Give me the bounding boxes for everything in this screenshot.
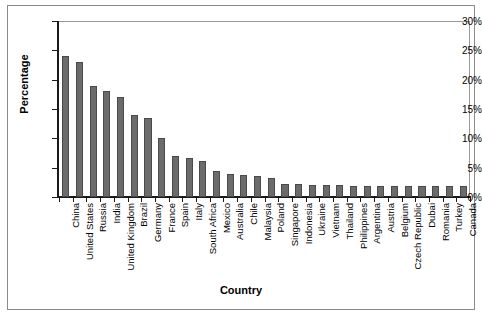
y-axis-tick-mark (52, 80, 57, 81)
x-axis-tick-mark (443, 198, 444, 202)
bar-slot (374, 21, 388, 197)
bar (76, 62, 83, 197)
y-axis-tick-mark (52, 138, 57, 139)
bar (460, 186, 467, 197)
x-axis-tick-mark (402, 198, 403, 202)
y-axis-tick-mark (52, 50, 57, 51)
bar (103, 91, 110, 197)
bar-slot (155, 21, 169, 197)
x-axis-category-label: Germany (152, 203, 163, 242)
bar-slot (402, 21, 416, 197)
bars-layer (59, 21, 470, 197)
x-axis-tick-mark (265, 198, 266, 202)
x-axis-tick-mark (292, 198, 293, 202)
x-axis-category-label: Belgium (399, 203, 410, 237)
x-axis-category-label: Poland (275, 203, 286, 233)
x-axis-category-label: Dubai (426, 203, 437, 228)
bar-slot (333, 21, 347, 197)
x-axis-tick-mark (169, 198, 170, 202)
bar-slot (59, 21, 73, 197)
bar (364, 186, 371, 197)
bar (240, 175, 247, 197)
bar-slot (128, 21, 142, 197)
x-axis-tick-mark (306, 198, 307, 202)
x-axis-category-label: Malaysia (262, 203, 273, 241)
x-axis-category-label: Italy (193, 203, 204, 220)
bar-slot (347, 21, 361, 197)
x-axis-category-label: France (166, 203, 177, 233)
x-axis-tick-mark (223, 198, 224, 202)
x-axis-tick-mark (237, 198, 238, 202)
bar (158, 138, 165, 197)
y-axis-title: Percentage (18, 14, 30, 154)
bar (117, 97, 124, 197)
x-axis-tick-mark (347, 198, 348, 202)
bar-slot (278, 21, 292, 197)
bar-slot (196, 21, 210, 197)
x-axis-tick-mark (141, 198, 142, 202)
bar (186, 158, 193, 197)
bar-slot (141, 21, 155, 197)
bar-slot (114, 21, 128, 197)
x-axis-category-label: Brazil (138, 203, 149, 227)
x-axis-tick-mark (278, 198, 279, 202)
x-axis-tick-mark (196, 198, 197, 202)
bar-slot (237, 21, 251, 197)
x-axis-tick-mark (182, 198, 183, 202)
x-axis-category-label: Thailand (344, 203, 355, 239)
bar (281, 184, 288, 197)
x-axis-tick-mark (470, 198, 471, 202)
x-axis-tick-mark (415, 198, 416, 202)
y-axis-tick-mark (52, 21, 57, 22)
bar (446, 186, 453, 197)
bar (377, 186, 384, 197)
x-axis-category-label: Russia (97, 203, 108, 232)
x-axis-category-label: China (70, 203, 81, 228)
y-axis-tick-mark (52, 109, 57, 110)
x-axis-tick-mark (429, 198, 430, 202)
x-axis-category-label: Indonesia (303, 203, 314, 244)
x-axis-category-label: United Kingdom (125, 203, 136, 271)
bar (62, 56, 69, 197)
bar-slot (86, 21, 100, 197)
x-axis-category-label: Romania (440, 203, 451, 241)
bar (227, 174, 234, 197)
bar (268, 178, 275, 197)
bar-slot (251, 21, 265, 197)
bar (172, 156, 179, 197)
bar (391, 186, 398, 197)
bar-slot (292, 21, 306, 197)
bar (309, 185, 316, 197)
bar-slot (360, 21, 374, 197)
x-axis-category-label: South Africa (207, 203, 218, 254)
x-axis-category-label: India (111, 203, 122, 224)
x-axis-category-label: Singapore (289, 203, 300, 246)
bar (350, 186, 357, 197)
x-axis-tick-mark (59, 198, 60, 202)
x-axis-title: Country (0, 284, 482, 296)
bar-slot (415, 21, 429, 197)
x-axis-tick-mark (128, 198, 129, 202)
bar (90, 86, 97, 197)
bar-slot (388, 21, 402, 197)
x-axis-tick-mark (251, 198, 252, 202)
bar (336, 185, 343, 197)
x-axis-category-label: Mexico (221, 203, 232, 233)
x-axis-tick-mark (86, 198, 87, 202)
x-axis-category-label: Austria (385, 203, 396, 233)
bar (432, 186, 439, 197)
bar (254, 176, 261, 197)
bar-slot (182, 21, 196, 197)
x-axis-tick-mark (114, 198, 115, 202)
bar-slot (100, 21, 114, 197)
x-axis-category-label: Ukraine (316, 203, 327, 236)
x-axis-category-label: United States (84, 203, 95, 260)
bar (144, 118, 151, 197)
x-axis-tick-mark (333, 198, 334, 202)
bar-slot (210, 21, 224, 197)
x-axis-tick-mark (155, 198, 156, 202)
y-axis-tick-mark (52, 197, 57, 198)
bar (323, 185, 330, 197)
bar (213, 171, 220, 197)
bar-slot (223, 21, 237, 197)
